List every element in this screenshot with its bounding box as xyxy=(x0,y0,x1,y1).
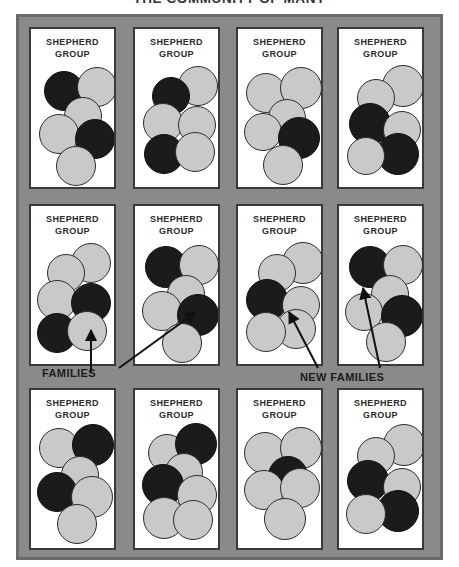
shepherd-group-label: SHEPHERDGROUP xyxy=(238,214,321,237)
shepherd-group-panel: SHEPHERDGROUP xyxy=(236,204,323,366)
family-circle xyxy=(56,146,96,186)
shepherd-group-label-line2: GROUP xyxy=(31,410,114,422)
shepherd-group-label-line1: SHEPHERD xyxy=(238,37,321,49)
family-circle xyxy=(264,498,306,540)
shepherd-group-panel: SHEPHERDGROUP xyxy=(133,204,220,366)
community-frame: SHEPHERDGROUPSHEPHERDGROUPSHEPHERDGROUPS… xyxy=(16,14,443,560)
shepherd-group-label-line2: GROUP xyxy=(31,49,114,61)
shepherd-group-panel: SHEPHERDGROUP xyxy=(337,388,424,550)
page-title: THE COMMUNITY OF MANY xyxy=(0,0,459,6)
shepherd-group-label: SHEPHERDGROUP xyxy=(339,37,422,60)
shepherd-group-label-line1: SHEPHERD xyxy=(339,37,422,49)
shepherd-group-label-line2: GROUP xyxy=(238,49,321,61)
shepherd-group-label-line1: SHEPHERD xyxy=(31,37,114,49)
shepherd-group-label-line2: GROUP xyxy=(135,49,218,61)
family-circle xyxy=(346,494,386,534)
shepherd-group-label-line2: GROUP xyxy=(135,226,218,238)
shepherd-group-label: SHEPHERDGROUP xyxy=(339,398,422,421)
annotation-label-new-families: NEW FAMILIES xyxy=(300,371,384,383)
shepherd-group-label-line1: SHEPHERD xyxy=(339,398,422,410)
shepherd-group-label-line2: GROUP xyxy=(31,226,114,238)
shepherd-group-label-line2: GROUP xyxy=(339,410,422,422)
shepherd-group-panel: SHEPHERDGROUP xyxy=(29,204,116,366)
shepherd-group-label: SHEPHERDGROUP xyxy=(238,37,321,60)
annotation-label-families: FAMILIES xyxy=(42,367,96,379)
shepherd-group-label-line1: SHEPHERD xyxy=(135,37,218,49)
shepherd-group-label-line2: GROUP xyxy=(135,410,218,422)
shepherd-group-label-line1: SHEPHERD xyxy=(31,214,114,226)
shepherd-group-label: SHEPHERDGROUP xyxy=(31,214,114,237)
shepherd-group-label-line1: SHEPHERD xyxy=(135,214,218,226)
shepherd-group-panel: SHEPHERDGROUP xyxy=(133,27,220,189)
family-circle xyxy=(263,145,303,185)
family-circle xyxy=(173,500,213,540)
shepherd-group-label-line1: SHEPHERD xyxy=(135,398,218,410)
shepherd-group-label: SHEPHERDGROUP xyxy=(31,398,114,421)
shepherd-group-label-line2: GROUP xyxy=(339,226,422,238)
family-circle xyxy=(347,137,385,175)
shepherd-group-panel: SHEPHERDGROUP xyxy=(29,388,116,550)
family-circle xyxy=(162,323,202,363)
family-circle xyxy=(67,311,107,351)
shepherd-group-label-line2: GROUP xyxy=(339,49,422,61)
shepherd-group-panel: SHEPHERDGROUP xyxy=(236,27,323,189)
family-circle xyxy=(246,312,286,352)
family-circle xyxy=(175,132,215,172)
shepherd-group-label: SHEPHERDGROUP xyxy=(135,398,218,421)
shepherd-group-panel: SHEPHERDGROUP xyxy=(337,27,424,189)
shepherd-group-panel: SHEPHERDGROUP xyxy=(133,388,220,550)
shepherd-group-label: SHEPHERDGROUP xyxy=(135,37,218,60)
family-circle xyxy=(57,504,97,544)
shepherd-group-label-line1: SHEPHERD xyxy=(339,214,422,226)
shepherd-group-label-line2: GROUP xyxy=(238,226,321,238)
shepherd-group-panel: SHEPHERDGROUP xyxy=(337,204,424,366)
shepherd-group-label: SHEPHERDGROUP xyxy=(31,37,114,60)
shepherd-group-label: SHEPHERDGROUP xyxy=(238,398,321,421)
shepherd-group-panel: SHEPHERDGROUP xyxy=(29,27,116,189)
shepherd-group-label: SHEPHERDGROUP xyxy=(135,214,218,237)
shepherd-group-label: SHEPHERDGROUP xyxy=(339,214,422,237)
family-circle xyxy=(366,322,406,362)
shepherd-group-label-line1: SHEPHERD xyxy=(238,398,321,410)
shepherd-group-label-line1: SHEPHERD xyxy=(31,398,114,410)
shepherd-group-label-line2: GROUP xyxy=(238,410,321,422)
shepherd-group-label-line1: SHEPHERD xyxy=(238,214,321,226)
shepherd-group-panel: SHEPHERDGROUP xyxy=(236,388,323,550)
